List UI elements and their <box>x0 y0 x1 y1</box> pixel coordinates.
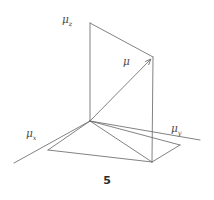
x-axis-label-symbol: μ <box>26 127 33 139</box>
vertical-plane-right-edge <box>152 57 153 162</box>
mu-vector-label: μ <box>123 56 130 67</box>
vertical-plane-top-edge <box>90 23 153 57</box>
base-edge-right <box>152 145 180 162</box>
figure-container: μz μx μy μ 5 <box>0 0 214 200</box>
vector-diagram <box>0 0 214 200</box>
mu-vector-arrow <box>90 60 151 122</box>
y-axis-label: μy <box>171 123 182 137</box>
base-edge-back <box>90 121 180 145</box>
base-edge-left <box>48 121 90 150</box>
y-axis-label-symbol: μ <box>171 122 178 134</box>
y-axis-label-subscript: y <box>178 129 182 137</box>
z-axis-label-symbol: μ <box>62 13 69 25</box>
z-axis-label-subscript: z <box>69 20 72 28</box>
y-axis-line <box>90 121 200 140</box>
x-axis-label: μx <box>26 128 37 142</box>
x-axis-label-subscript: x <box>33 134 37 142</box>
z-axis-label: μz <box>62 14 72 28</box>
figure-caption: 5 <box>0 174 214 187</box>
